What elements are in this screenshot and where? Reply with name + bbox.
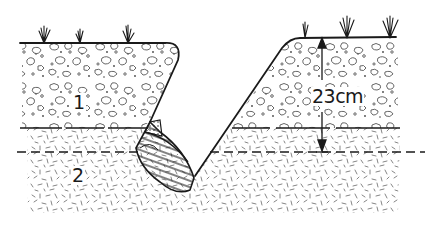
layer-1-label: 1	[72, 93, 86, 112]
grass-tuft-icon	[76, 29, 83, 43]
depth-measurement-label: 23cm	[311, 87, 364, 106]
soil-profile-diagram	[0, 0, 432, 231]
grass-tuft-icon	[340, 16, 354, 38]
grass-tuft-icon	[303, 22, 308, 38]
grass-tuft-icon	[383, 16, 398, 38]
grass-tuft-icon	[123, 25, 134, 43]
grass-tuft-icon	[39, 26, 50, 43]
layer-2-label: 2	[71, 166, 85, 185]
